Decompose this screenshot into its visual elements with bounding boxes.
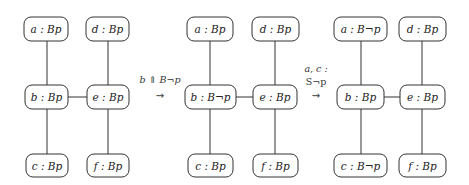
node-a: a : Bp (24, 17, 68, 41)
transition-label-operator: S¬p (306, 76, 327, 87)
node-d: d : Bp (252, 17, 299, 41)
transition-label: b ⇑ B¬p (139, 74, 180, 85)
node-e: e : Bp (87, 85, 129, 109)
node-e: e : Bp (253, 85, 297, 109)
node-f: f : Bp (87, 154, 129, 177)
panel-3: a : B¬p d : Bp b : Bp e : Bp c : B¬p f :… (334, 17, 446, 177)
node-e: e : Bp (400, 85, 445, 109)
node-c: c : Bp (188, 154, 233, 177)
squiggly-arrow-icon: ⇝ (156, 90, 164, 101)
node-a: a : Bp (187, 17, 233, 41)
node-d: d : Bp (399, 17, 446, 41)
node-c: c : B¬p (334, 154, 387, 177)
node-label: b : Bp (345, 91, 377, 103)
squiggly-arrow-icon: ⇝ (312, 90, 320, 101)
node-label: e : Bp (260, 91, 291, 103)
node-a: a : B¬p (334, 17, 387, 41)
node-d: d : Bp (86, 17, 129, 41)
node-c: c : Bp (26, 154, 68, 177)
node-label: d : Bp (92, 23, 124, 35)
panel-1: a : Bp d : Bp b : Bp e : Bp c : Bp f : B… (24, 17, 129, 177)
node-b: b : B¬p (185, 85, 236, 109)
node-label: f : Bp (260, 160, 290, 172)
node-label: d : Bp (260, 23, 292, 35)
belief-update-diagram: a : Bp d : Bp b : Bp e : Bp c : Bp f : B… (0, 0, 469, 185)
node-label: f : Bp (407, 160, 437, 172)
node-label: e : Bp (407, 91, 438, 103)
node-f: f : Bp (399, 154, 446, 177)
node-label: a : B¬p (341, 23, 381, 35)
node-label: c : Bp (32, 160, 63, 172)
node-b: b : Bp (337, 85, 384, 109)
panel-2: a : Bp d : Bp b : B¬p e : Bp c : Bp f : … (185, 17, 299, 177)
transition-2: a, c : S¬p ⇝ (304, 63, 327, 101)
node-label: f : Bp (93, 160, 123, 172)
node-b: b : Bp (25, 85, 68, 109)
node-label: a : Bp (195, 23, 226, 35)
node-label: e : Bp (93, 91, 124, 103)
node-label: a : Bp (31, 23, 62, 35)
node-label: b : B¬p (190, 91, 230, 103)
node-label: c : B¬p (341, 160, 381, 172)
node-label: b : Bp (31, 91, 63, 103)
node-f: f : Bp (253, 154, 298, 177)
node-label: c : Bp (195, 160, 226, 172)
transition-1: b ⇑ B¬p ⇝ (139, 74, 180, 101)
transition-label-agents: a, c : (304, 63, 327, 74)
node-label: d : Bp (407, 23, 439, 35)
